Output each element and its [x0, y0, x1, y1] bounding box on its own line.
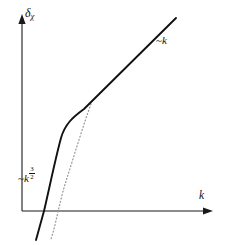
- x-axis-label-symbol: k: [199, 189, 204, 201]
- x-axis-label: k: [199, 190, 204, 202]
- plot-canvas: [0, 0, 228, 245]
- power-regime-exponent: 32: [29, 166, 34, 181]
- delta-chi-curve: [36, 18, 176, 240]
- x-axis-arrow-icon: [203, 207, 213, 214]
- y-axis-label-subscript: χ: [31, 11, 35, 21]
- figure-root: δχ k ~k ~k32: [0, 0, 228, 245]
- power-regime-exponent-denominator: 2: [29, 174, 34, 181]
- power-regime-annotation: ~k32: [18, 166, 35, 184]
- linear-regime-annotation: ~k: [156, 35, 167, 46]
- power-law-asymptote-dotted: [51, 104, 91, 239]
- linear-regime-symbol: k: [162, 34, 167, 46]
- power-regime-symbol: k: [24, 172, 29, 184]
- y-axis-label: δχ: [25, 7, 34, 21]
